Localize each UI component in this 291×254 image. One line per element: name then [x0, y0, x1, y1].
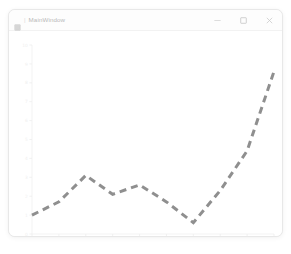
- maximize-button[interactable]: [230, 10, 256, 31]
- window-titlebar[interactable]: | MainWindow: [9, 10, 282, 31]
- window-title: MainWindow: [29, 17, 66, 23]
- y-tick-label: 7: [25, 99, 28, 104]
- app-icon: [14, 17, 21, 24]
- y-tick-label: 9: [25, 62, 28, 67]
- y-tick-label: 0: [25, 232, 28, 237]
- titlebar-left-group: | MainWindow: [9, 17, 65, 24]
- y-tick-label: 5: [25, 137, 28, 142]
- screen-root: | MainWindow: [0, 0, 291, 254]
- close-button[interactable]: [256, 10, 282, 31]
- titlebar-separator: |: [24, 17, 26, 23]
- y-tick-label: 3: [25, 175, 28, 180]
- x-axis: 0123456789: [31, 234, 276, 237]
- main-window: | MainWindow: [8, 9, 283, 237]
- data-line-series-1: [32, 71, 274, 222]
- y-tick-label: 4: [25, 156, 28, 161]
- y-tick-label: 6: [25, 118, 28, 123]
- window-controls: [204, 10, 282, 30]
- y-tick-label: 8: [25, 80, 28, 85]
- y-tick-label: 2: [25, 194, 28, 199]
- minimize-icon: [213, 16, 222, 25]
- maximize-icon: [239, 16, 248, 25]
- data-series-group: [32, 71, 274, 222]
- figure-client-area: 012345678910 0123456789: [9, 31, 282, 237]
- y-tick-label: 1: [25, 213, 28, 218]
- y-axis: 012345678910: [22, 43, 32, 237]
- y-axis-tick-labels: 012345678910: [22, 43, 28, 237]
- matplotlib-figure: 012345678910 0123456789: [9, 31, 282, 237]
- y-tick-label: 10: [22, 43, 28, 48]
- plot-canvas[interactable]: 012345678910 0123456789: [9, 31, 282, 237]
- minimize-button[interactable]: [204, 10, 230, 31]
- close-icon: [265, 16, 274, 25]
